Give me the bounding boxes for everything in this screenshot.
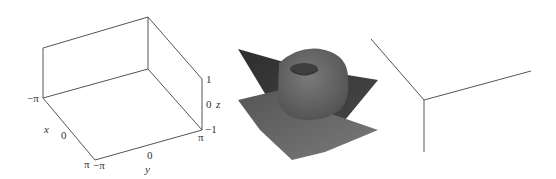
y-tick-pi: π bbox=[198, 131, 204, 143]
z-axis-label: z bbox=[215, 98, 221, 110]
dome-surface bbox=[278, 49, 349, 121]
box-edge bbox=[43, 69, 148, 98]
y-axis-label: y bbox=[144, 163, 150, 175]
surface-plot-panel bbox=[238, 49, 378, 160]
x-tick-zero: 0 bbox=[61, 129, 67, 141]
y-tick-zero: 0 bbox=[147, 149, 153, 161]
box-edge bbox=[43, 17, 148, 48]
y-tick-neg-pi: −π bbox=[93, 159, 105, 171]
box-edge bbox=[148, 69, 202, 130]
z-tick-one: 1 bbox=[206, 73, 212, 85]
x-axis-label: x bbox=[43, 123, 49, 135]
x-tick-neg-pi: −π bbox=[27, 92, 39, 104]
x-axis-line bbox=[43, 98, 95, 160]
x-tick-pi: π bbox=[84, 158, 90, 170]
z-tick-neg-one: −1 bbox=[205, 123, 217, 135]
box-edge bbox=[148, 17, 202, 79]
axes-corner-panel bbox=[371, 39, 531, 152]
axes-box-panel: −π 0 π x −π 0 π y 1 0 −1 z bbox=[27, 17, 221, 175]
figure: −π 0 π x −π 0 π y 1 0 −1 z bbox=[0, 0, 556, 179]
corner-axis-line bbox=[371, 39, 424, 100]
z-tick-zero: 0 bbox=[206, 98, 212, 110]
corner-axis-line bbox=[424, 71, 531, 100]
